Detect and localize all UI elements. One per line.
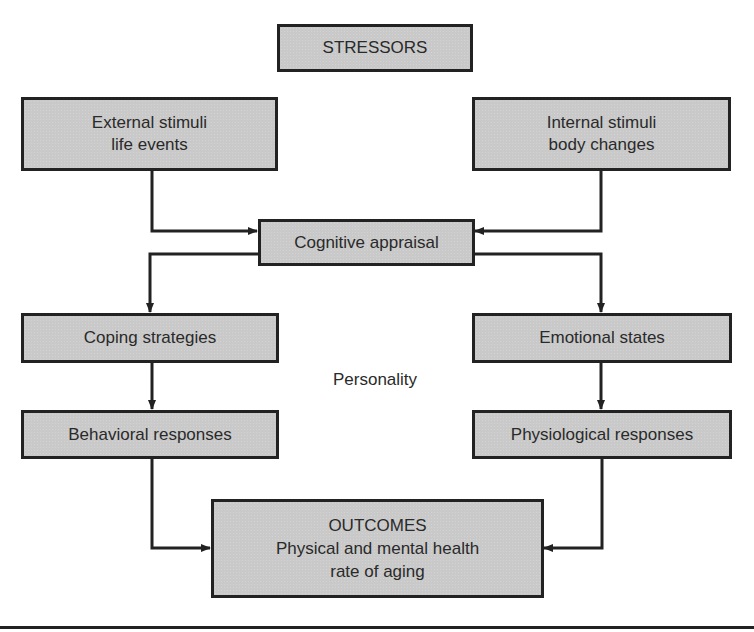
node-emotional-label: Emotional states bbox=[539, 327, 665, 349]
node-physiological-label: Physiological responses bbox=[511, 424, 693, 446]
node-behavioral-responses: Behavioral responses bbox=[21, 410, 279, 459]
arrow-appraisal-to-coping bbox=[150, 254, 258, 312]
node-outcomes-line-2: Physical and mental health bbox=[276, 537, 479, 560]
node-internal-line-1: Internal stimuli bbox=[547, 112, 657, 134]
node-internal-stimuli: Internal stimuli body changes bbox=[472, 97, 731, 171]
node-outcomes: OUTCOMES Physical and mental health rate… bbox=[211, 499, 544, 598]
node-appraisal-label: Cognitive appraisal bbox=[294, 232, 439, 254]
node-outcomes-title: OUTCOMES bbox=[328, 514, 426, 537]
node-physiological-responses: Physiological responses bbox=[472, 410, 732, 459]
arrow-internal-to-appraisal bbox=[475, 170, 601, 231]
node-behavioral-label: Behavioral responses bbox=[68, 424, 231, 446]
arrow-external-to-appraisal bbox=[152, 170, 257, 231]
node-external-stimuli: External stimuli life events bbox=[21, 97, 278, 171]
node-stressors-label: STRESSORS bbox=[323, 37, 428, 59]
node-outcomes-line-3: rate of aging bbox=[330, 560, 425, 583]
personality-label: Personality bbox=[333, 370, 417, 390]
node-internal-line-2: body changes bbox=[549, 134, 655, 156]
node-stressors: STRESSORS bbox=[277, 24, 473, 72]
arrow-appraisal-to-emotional bbox=[474, 254, 601, 312]
arrow-physiological-to-outcomes bbox=[544, 458, 602, 548]
node-coping-strategies: Coping strategies bbox=[21, 313, 279, 363]
node-emotional-states: Emotional states bbox=[472, 313, 732, 363]
node-external-line-2: life events bbox=[111, 134, 188, 156]
bottom-divider bbox=[0, 626, 754, 629]
node-coping-label: Coping strategies bbox=[84, 327, 216, 349]
node-cognitive-appraisal: Cognitive appraisal bbox=[258, 219, 475, 266]
arrow-behavioral-to-outcomes bbox=[152, 458, 210, 548]
stress-model-diagram: STRESSORS External stimuli life events I… bbox=[0, 0, 754, 632]
node-external-line-1: External stimuli bbox=[92, 112, 207, 134]
